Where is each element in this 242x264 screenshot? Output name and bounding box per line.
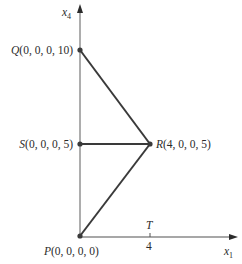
label-Q: Q(0, 0, 0, 10)	[11, 44, 73, 57]
point-P	[77, 233, 82, 238]
point-S	[77, 141, 82, 146]
x4-axis-label: x4	[61, 6, 71, 21]
point-Q	[77, 47, 82, 52]
diagram-canvas: x4 x1 T 4 Q(0, 0, 0, 10) S(0, 0, 0, 5) R…	[0, 0, 242, 264]
label-R: R(4, 0, 0, 5)	[155, 138, 211, 151]
edge-Q-R	[80, 50, 150, 144]
x4-axis-arrow-icon	[77, 4, 83, 13]
edge-P-R	[80, 144, 150, 236]
x1-axis-arrow-icon	[229, 234, 238, 240]
tick-label-T: T	[146, 219, 154, 231]
label-S: S(0, 0, 0, 5)	[19, 138, 73, 151]
x1-axis-label: x1	[223, 245, 233, 260]
point-R	[147, 141, 152, 146]
label-P: P(0, 0, 0, 0)	[43, 245, 99, 258]
tick-label-4: 4	[146, 240, 152, 252]
